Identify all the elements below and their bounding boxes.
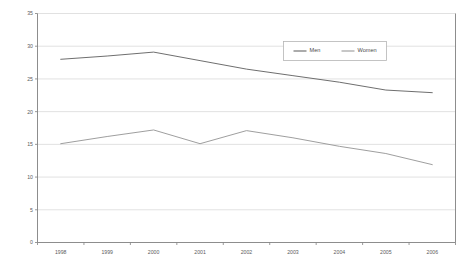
x-tick-label: 2002 xyxy=(241,249,253,255)
gridlines xyxy=(38,14,456,210)
data-series-lines xyxy=(61,52,433,165)
y-tick-label: 15 xyxy=(27,141,33,147)
y-tick-label: 5 xyxy=(30,207,33,213)
y-tick-label: 0 xyxy=(30,239,33,245)
y-tick-label: 30 xyxy=(27,43,33,49)
chart-legend: MenWomen xyxy=(284,42,387,61)
line-chart: 05101520253035 1998199920002001200220032… xyxy=(0,0,468,275)
x-tick-label: 2006 xyxy=(427,249,439,255)
y-axis-tick-labels: 05101520253035 xyxy=(27,10,33,245)
x-tick-label: 2003 xyxy=(287,249,299,255)
chart-canvas: 05101520253035 1998199920002001200220032… xyxy=(0,0,468,275)
legend-label-women: Women xyxy=(358,47,377,53)
y-tick-label: 35 xyxy=(27,10,33,16)
x-tick-label: 1999 xyxy=(101,249,113,255)
axis-frame xyxy=(38,14,456,243)
x-tick-label: 2004 xyxy=(334,249,346,255)
x-tick-label: 1998 xyxy=(55,249,67,255)
x-tick-label: 2001 xyxy=(194,249,206,255)
y-tick-label: 10 xyxy=(27,174,33,180)
series-line-women xyxy=(61,130,433,165)
y-tick-label: 20 xyxy=(27,109,33,115)
x-axis-tick-labels: 199819992000200120022003200420052006 xyxy=(55,249,438,255)
x-tick-label: 2000 xyxy=(148,249,160,255)
y-tick-label: 25 xyxy=(27,76,33,82)
x-tick-label: 2005 xyxy=(380,249,392,255)
legend-label-men: Men xyxy=(310,47,321,53)
